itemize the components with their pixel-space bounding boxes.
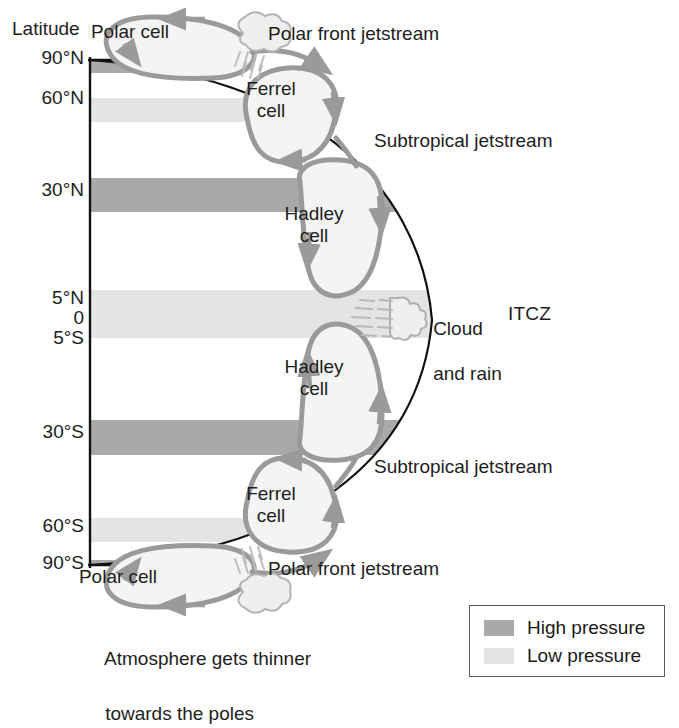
polar-cell-north-label-line1: Polar cell xyxy=(91,21,169,42)
latitude-tick-90N: 90°N xyxy=(0,47,84,69)
legend-item-high-pressure: High pressure xyxy=(484,617,645,639)
high-pressure-label: High pressure xyxy=(527,617,645,639)
hadley-cell-south-label: Hadleycell xyxy=(254,356,374,401)
cloud-and-rain-label: Cloud and rain xyxy=(412,296,502,408)
hadley-cell-south-label-line2: cell xyxy=(300,378,329,399)
atmosphere-note-line1: Atmosphere gets thinner xyxy=(104,648,311,669)
hadley-cell-north-label-line1: Hadley xyxy=(284,203,343,224)
latitude-tick-60S: 60°S xyxy=(0,515,84,537)
cloud-and-rain-line2: and rain xyxy=(433,363,502,384)
atmosphere-note-line2: towards the poles xyxy=(105,703,254,724)
ferrel-cell-south-label-line2: cell xyxy=(257,505,286,526)
pressure-band-equatorial-low xyxy=(90,290,438,338)
polar-cell-south-label: Polar cell xyxy=(58,566,178,588)
high-pressure-swatch xyxy=(484,620,514,636)
ferrel-cell-north-label: Ferrelcell xyxy=(211,78,331,123)
ferrel-cell-south-label: Ferrelcell xyxy=(211,483,331,528)
polar-front-jetstream-north-label: Polar front jetstream xyxy=(268,23,439,45)
hadley-cell-north-label: Hadleycell xyxy=(254,203,374,248)
itcz-label: ITCZ xyxy=(508,303,551,325)
subtropical-jetstream-north-label: Subtropical jetstream xyxy=(374,130,552,152)
polar-cell-south-label-line1: Polar cell xyxy=(79,566,157,587)
ferrel-cell-north-label-line1: Ferrel xyxy=(246,78,296,99)
hadley-cell-south-label-line1: Hadley xyxy=(284,356,343,377)
legend-item-low-pressure: Low pressure xyxy=(484,645,641,667)
ferrel-cell-north-label-line2: cell xyxy=(257,100,286,121)
latitude-tick-60N: 60°N xyxy=(0,87,84,109)
subtropical-jetstream-south-label: Subtropical jetstream xyxy=(374,456,552,478)
latitude-tick-5S: 5°S xyxy=(0,327,84,349)
latitude-tick-30N: 30°N xyxy=(0,179,84,201)
low-pressure-label: Low pressure xyxy=(527,645,641,667)
polar-cell-north-label: Polar cell xyxy=(70,21,190,43)
latitude-tick-30S: 30°S xyxy=(0,421,84,443)
atmosphere-note: Atmosphere gets thinner towards the pole… xyxy=(84,617,311,728)
low-pressure-swatch xyxy=(484,648,514,664)
ferrel-cell-south-label-line1: Ferrel xyxy=(246,483,296,504)
hadley-cell-north-label-line2: cell xyxy=(300,225,329,246)
pressure-legend: High pressure Low pressure xyxy=(469,605,665,677)
polar-front-jetstream-south-label: Polar front jetstream xyxy=(268,558,439,580)
cloud-and-rain-line1: Cloud xyxy=(433,318,483,339)
